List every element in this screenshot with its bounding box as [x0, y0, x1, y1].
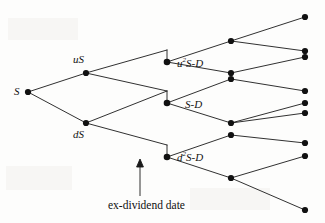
edge-m1-to-r1 [231, 17, 305, 41]
binomial-tree-figure: S uS dS u2S-D S-D d2S-D ex-dividend date [0, 0, 325, 223]
edge-m1-to-r2 [231, 41, 305, 51]
node-m1 [228, 38, 234, 44]
label-mid-exdividend: S-D [185, 99, 202, 110]
edge-m4-to-r5 [231, 103, 305, 123]
node-us [83, 70, 89, 76]
node-r9 [302, 207, 308, 213]
edge-s-to-ds [28, 92, 86, 123]
node-r3 [302, 54, 308, 60]
node-r4 [302, 88, 308, 94]
edge-m3-to-r4 [231, 79, 305, 91]
edge-m4-to-r6 [231, 113, 305, 123]
label-down-two-base: S-D [186, 151, 203, 163]
node-r7 [302, 140, 308, 146]
edge-us-to-ud-diag [86, 73, 167, 91]
node-uu [164, 59, 171, 66]
node-m5 [228, 132, 234, 138]
node-r2 [302, 48, 308, 54]
edge-ds-to-ud-diag [86, 91, 167, 123]
label-down-one: dS [73, 129, 84, 140]
node-r8 [302, 153, 308, 159]
label-up-two-base: S-D [186, 57, 203, 69]
ex-dividend-arrow [137, 159, 144, 196]
node-dd [164, 154, 171, 161]
edge-m2-to-r3 [231, 57, 305, 73]
node-r6 [302, 110, 308, 116]
node-ds [83, 120, 89, 126]
node-r5 [302, 100, 308, 106]
label-up-one: uS [73, 54, 84, 65]
edge-us-to-uu-diag [86, 50, 167, 73]
node-r1 [302, 14, 308, 20]
node-m6 [228, 175, 234, 181]
node-m3 [228, 76, 234, 82]
label-up-two-exdividend: u2S-D [177, 58, 203, 69]
node-m4 [228, 120, 234, 126]
node-m2 [228, 70, 234, 76]
ex-dividend-date-caption: ex-dividend date [108, 200, 185, 212]
arrow-head [137, 159, 144, 167]
label-root: S [14, 86, 20, 97]
node-ud [164, 100, 171, 107]
label-down-two-exdividend: d2S-D [177, 152, 203, 163]
tree-graphic [0, 0, 325, 223]
edge-ds-to-dd-diag [86, 123, 167, 145]
edge-m6-to-r8 [231, 156, 305, 178]
edge-m5-to-r7 [231, 135, 305, 143]
edge-s-to-us [28, 73, 86, 92]
edge-m6-to-r9 [231, 178, 305, 210]
node-s [25, 89, 31, 95]
